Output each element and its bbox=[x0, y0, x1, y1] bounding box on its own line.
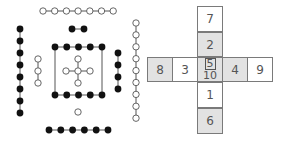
cell-number: 7 bbox=[206, 12, 214, 26]
cell-3: 3 bbox=[172, 57, 198, 82]
number-cross-grid: 72835104916 bbox=[0, 0, 287, 143]
cell-number: 1 bbox=[206, 88, 214, 102]
cell-number: 3 bbox=[181, 63, 189, 77]
cell-number: 9 bbox=[256, 63, 264, 77]
cell-4: 4 bbox=[222, 57, 248, 82]
cell-number: 6 bbox=[206, 114, 214, 128]
cell-number: 8 bbox=[156, 63, 164, 77]
cell-number: 4 bbox=[231, 63, 239, 77]
cell-9: 9 bbox=[247, 57, 273, 82]
cell-6: 6 bbox=[197, 108, 223, 134]
center-number-sub: 10 bbox=[203, 71, 217, 81]
cell-1: 1 bbox=[197, 82, 223, 108]
cell-7: 7 bbox=[197, 6, 223, 32]
cell-2: 2 bbox=[197, 32, 223, 57]
cell-8: 8 bbox=[147, 57, 173, 82]
cell-center: 510 bbox=[197, 57, 223, 82]
cell-number: 2 bbox=[206, 38, 214, 52]
